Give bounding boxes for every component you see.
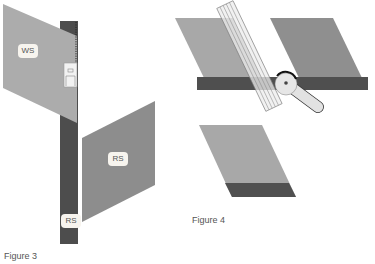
figure-4 (175, 1, 368, 197)
figure-4-caption: Figure 4 (192, 215, 225, 225)
rs-panel-label: RS (108, 152, 128, 166)
rs-strip-label: RS (61, 214, 81, 228)
figure-3 (3, 4, 155, 244)
ws-label: WS (18, 44, 38, 58)
figure-3-caption: Figure 3 (4, 251, 37, 261)
bottom-seam-band (225, 183, 296, 197)
right-fabric-panel (270, 18, 362, 78)
presser-foot-icon (64, 63, 77, 87)
diagram-canvas (0, 0, 375, 264)
